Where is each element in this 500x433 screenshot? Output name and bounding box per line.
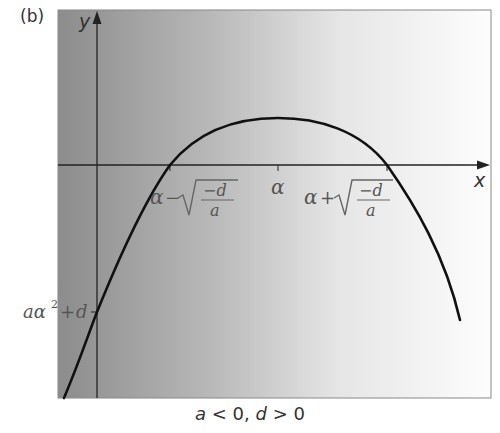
parabola-diagram: y x α α − −d a α + −d a aα 2 + d: [0, 0, 500, 433]
svg-text:a: a: [210, 201, 220, 220]
y-axis-label: y: [78, 10, 91, 32]
plot-frame: [58, 10, 491, 398]
svg-text:α: α: [150, 185, 164, 209]
svg-text:−d: −d: [359, 181, 383, 200]
svg-text:aα: aα: [23, 301, 46, 322]
y-intercept-label: aα 2 + d: [23, 298, 88, 322]
svg-text:a: a: [366, 201, 376, 220]
svg-text:−d: −d: [203, 181, 227, 200]
svg-text:+: +: [320, 187, 335, 208]
svg-text:2: 2: [51, 298, 58, 311]
svg-text:α: α: [304, 185, 318, 209]
svg-text:d: d: [76, 301, 88, 322]
alpha-label: α: [271, 175, 285, 199]
svg-text:+: +: [60, 301, 75, 322]
x-axis-label: x: [473, 169, 486, 191]
caption: a < 0, d > 0: [0, 403, 500, 424]
